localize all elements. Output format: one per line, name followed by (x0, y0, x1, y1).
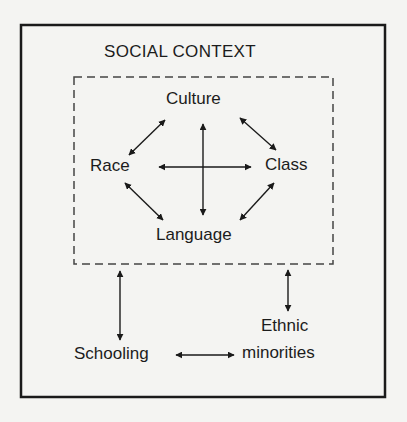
node-language: Language (156, 225, 232, 245)
arrow-culture-class (240, 118, 276, 150)
node-schooling: Schooling (74, 344, 149, 364)
social-context-title: SOCIAL CONTEXT (104, 42, 256, 62)
arrow-class-language (240, 183, 274, 220)
diagram-canvas: SOCIAL CONTEXT Culture Race Class Langua… (0, 0, 407, 422)
node-class: Class (265, 155, 308, 175)
arrow-race-language (125, 183, 163, 220)
arrow-race-culture (129, 120, 165, 155)
diagram-lines (0, 0, 407, 422)
node-race: Race (90, 156, 130, 176)
node-culture: Culture (166, 89, 221, 109)
node-ethnic-minorities-line2: minorities (242, 343, 315, 363)
node-ethnic-minorities-line1: Ethnic (261, 316, 308, 336)
